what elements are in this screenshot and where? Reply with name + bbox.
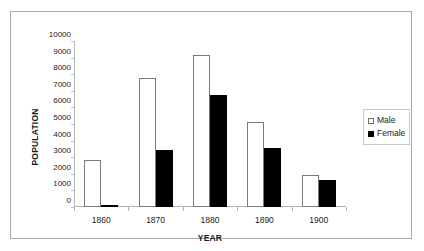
- y-axis-tick-labels: 0100020003000400050006000700080009000100…: [41, 35, 71, 207]
- x-axis-tick-labels: 18601870188018901900: [74, 215, 346, 227]
- y-axis-line: [74, 41, 75, 207]
- chart-frame: POPULATION 01000200030004000500060007000…: [10, 11, 412, 239]
- plot-area: [74, 41, 346, 207]
- legend-item-male[interactable]: Male: [368, 114, 405, 127]
- y-tick-mark: [71, 58, 74, 59]
- x-tick-label: 1890: [237, 215, 291, 225]
- bar-1900-male[interactable]: [302, 175, 319, 207]
- x-axis-title: YEAR: [74, 233, 346, 243]
- x-tick-mark: [183, 207, 184, 211]
- bar-1880-male[interactable]: [193, 55, 210, 207]
- legend-swatch-icon: [368, 118, 374, 124]
- y-tick-mark: [71, 157, 74, 158]
- y-tick-label: 1000: [41, 180, 71, 188]
- y-tick-label: 9000: [41, 48, 71, 56]
- bar-1890-female[interactable]: [264, 148, 281, 207]
- legend-item-label: Male: [377, 116, 395, 125]
- x-tick-mark: [237, 207, 238, 211]
- x-tick-label: 1900: [292, 215, 346, 225]
- x-tick-label: 1880: [183, 215, 237, 225]
- legend-item-label: Female: [377, 129, 405, 138]
- legend-swatch-icon: [368, 131, 374, 137]
- y-tick-label: 7000: [41, 81, 71, 89]
- bar-group: [247, 41, 281, 207]
- y-tick-label: 0: [41, 197, 71, 205]
- x-tick-label: 1870: [128, 215, 182, 225]
- y-tick-mark: [71, 107, 74, 108]
- x-tick-mark: [292, 207, 293, 211]
- bar-group: [139, 41, 173, 207]
- y-tick-mark: [71, 174, 74, 175]
- y-tick-label: 6000: [41, 97, 71, 105]
- y-tick-label: 3000: [41, 147, 71, 155]
- bar-group: [193, 41, 227, 207]
- y-tick-label: 4000: [41, 131, 71, 139]
- bar-1900-female[interactable]: [319, 180, 336, 207]
- bar-1860-female[interactable]: [101, 205, 118, 207]
- x-tick-mark: [128, 207, 129, 211]
- bar-1880-female[interactable]: [210, 95, 227, 207]
- y-tick-mark: [71, 141, 74, 142]
- legend-item-female[interactable]: Female: [368, 127, 405, 140]
- x-tick-mark: [346, 207, 347, 211]
- bar-1870-female[interactable]: [156, 150, 173, 207]
- bar-1870-male[interactable]: [139, 78, 156, 207]
- y-tick-mark: [71, 41, 74, 42]
- y-tick-label: 5000: [41, 114, 71, 122]
- y-tick-label: 2000: [41, 164, 71, 172]
- bar-1890-male[interactable]: [247, 122, 264, 207]
- y-tick-mark: [71, 124, 74, 125]
- bar-group: [302, 41, 336, 207]
- bar-group: [84, 41, 118, 207]
- y-tick-mark: [71, 74, 74, 75]
- bar-1860-male[interactable]: [84, 160, 101, 207]
- y-tick-label: 10000: [41, 31, 71, 39]
- y-axis-title: POPULATION: [29, 87, 41, 187]
- x-tick-mark: [74, 207, 75, 211]
- chart-legend: MaleFemale: [363, 109, 410, 145]
- x-tick-label: 1860: [74, 215, 128, 225]
- y-tick-mark: [71, 190, 74, 191]
- y-tick-label: 8000: [41, 64, 71, 72]
- y-tick-mark: [71, 91, 74, 92]
